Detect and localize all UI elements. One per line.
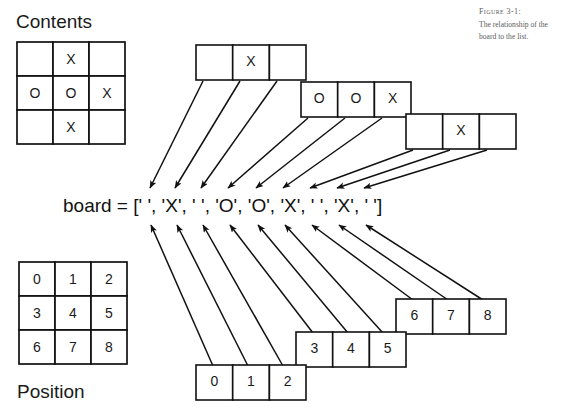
contents-text-0-1: X xyxy=(66,51,76,67)
contents-text-2-1: X xyxy=(66,119,76,135)
position-text-0-0: 0 xyxy=(33,271,41,287)
figure-caption-title: Figure 3-1: xyxy=(479,6,561,19)
position-text-0-1: 1 xyxy=(69,271,77,287)
position-strip-row-0: 0 1 2 xyxy=(196,365,306,400)
position-strip-2-text-0: 6 xyxy=(410,307,418,323)
position-strip-1-text-2: 5 xyxy=(384,340,392,356)
arrow-up-7 xyxy=(339,225,448,300)
arrow-down-6 xyxy=(310,150,413,188)
contents-strip-row-0: X xyxy=(196,45,306,80)
position-grid: 0 1 2 3 4 5 6 7 8 xyxy=(19,262,127,364)
arrow-up-2 xyxy=(203,225,283,366)
arrow-up-8 xyxy=(366,225,483,300)
position-strip-0-text-1: 1 xyxy=(247,373,255,389)
position-label: Position xyxy=(17,381,85,402)
contents-strip-0-text-1: X xyxy=(246,53,256,69)
contents-strip-1-text-2: X xyxy=(388,90,398,106)
position-text-2-1: 7 xyxy=(69,339,77,355)
position-strip-2-text-2: 8 xyxy=(484,307,492,323)
arrow-down-1 xyxy=(175,81,240,188)
contents-text-1-2: X xyxy=(102,85,112,101)
contents-cell-0-0 xyxy=(17,42,53,76)
arrow-up-0 xyxy=(151,225,213,366)
position-text-1-1: 4 xyxy=(69,305,77,321)
position-text-0-2: 2 xyxy=(105,271,113,287)
arrow-down-0 xyxy=(150,81,203,188)
contents-strip-2-cell-2 xyxy=(479,114,516,149)
board-list-expression: board = [' ', 'X', ' ', 'O', 'O', 'X', '… xyxy=(63,195,382,216)
contents-text-1-1: O xyxy=(66,85,77,101)
contents-strip-row-1: O O X xyxy=(301,82,411,117)
position-strip-1-text-0: 3 xyxy=(310,340,318,356)
position-text-1-0: 3 xyxy=(33,305,41,321)
arrow-down-7 xyxy=(337,150,450,188)
contents-grid: X O O X X xyxy=(17,42,125,144)
board-to-list-diagram: Contents X O O X X xyxy=(0,0,565,416)
position-strip-row-1: 3 4 5 xyxy=(296,332,406,367)
contents-cell-0-2 xyxy=(89,42,125,76)
contents-strip-row-2: X xyxy=(406,114,516,149)
position-text-2-0: 6 xyxy=(33,339,41,355)
arrow-down-2 xyxy=(201,81,277,188)
contents-strip-2-text-1: X xyxy=(456,122,466,138)
position-strip-0-text-0: 0 xyxy=(210,373,218,389)
contents-strip-1-text-0: O xyxy=(314,90,325,106)
position-strip-2-text-1: 7 xyxy=(447,307,455,323)
contents-label: Contents xyxy=(16,11,92,32)
position-strip-row-2: 6 7 8 xyxy=(396,299,506,334)
figure-caption: Figure 3-1: The relationship of the boar… xyxy=(479,6,561,44)
position-text-2-2: 8 xyxy=(105,339,113,355)
contents-strip-1-text-1: O xyxy=(351,90,362,106)
contents-text-1-0: O xyxy=(30,85,41,101)
figure-caption-body: The relationship of the board to the lis… xyxy=(479,19,561,44)
arrow-down-3 xyxy=(228,118,308,188)
position-strip-1-text-1: 4 xyxy=(347,340,355,356)
figure-container: Contents X O O X X xyxy=(0,0,565,416)
arrow-up-1 xyxy=(177,225,248,366)
contents-cell-2-2 xyxy=(89,110,125,144)
contents-strip-0-cell-0 xyxy=(196,45,233,80)
contents-cell-2-0 xyxy=(17,110,53,144)
position-text-1-2: 5 xyxy=(105,305,113,321)
position-strip-0-text-2: 2 xyxy=(284,373,292,389)
contents-strip-2-cell-0 xyxy=(406,114,443,149)
arrow-up-6 xyxy=(312,225,413,300)
arrow-down-8 xyxy=(364,150,487,188)
contents-strip-0-cell-2 xyxy=(269,45,306,80)
